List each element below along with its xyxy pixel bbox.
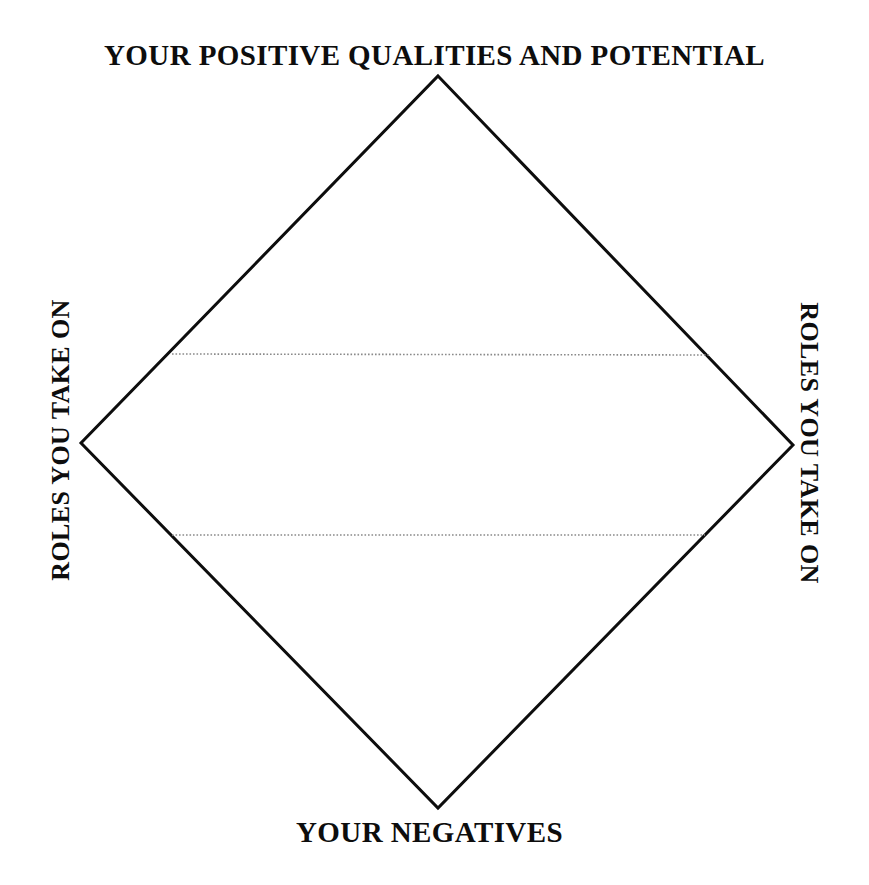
left-label-roles-you-take-on: ROLES YOU TAKE ON [48,299,74,581]
diagram-canvas: YOUR POSITIVE QUALITIES AND POTENTIAL YO… [0,0,869,885]
diamond-outline [81,76,793,808]
diamond-diagram-graphic [0,0,869,885]
top-label-positive-qualities: YOUR POSITIVE QUALITIES AND POTENTIAL [0,41,869,70]
upper-dotted-divider-line [172,354,710,355]
right-label-roles-you-take-on: ROLES YOU TAKE ON [796,302,822,584]
bottom-label-negatives: YOUR NEGATIVES [0,818,864,847]
